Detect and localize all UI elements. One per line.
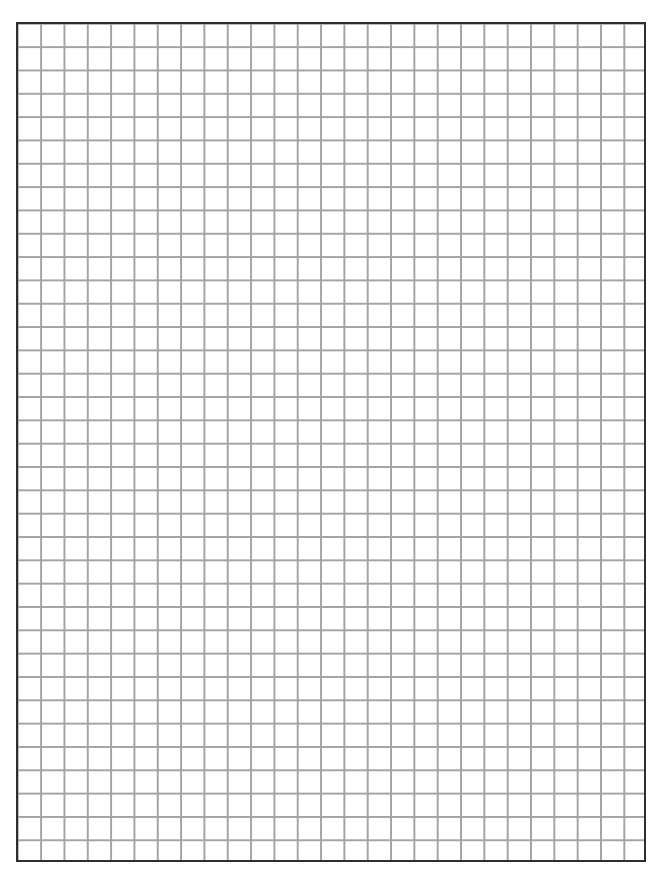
graph-paper-page [0, 0, 666, 879]
cropped-header-text [0, 0, 666, 8]
graph-paper-grid [16, 22, 646, 862]
